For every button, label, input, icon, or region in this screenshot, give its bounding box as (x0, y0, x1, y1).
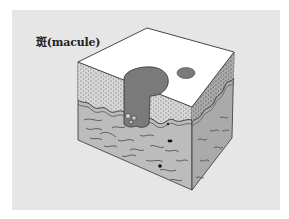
macule-spot (177, 68, 195, 79)
skin-block-illustration (0, 0, 289, 219)
